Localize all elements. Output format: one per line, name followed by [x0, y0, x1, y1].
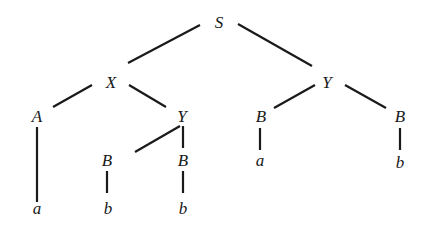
tree-edge [345, 85, 386, 108]
tree-node-Y1: Y [322, 73, 333, 92]
tree-edge [238, 24, 312, 66]
tree-edge [128, 25, 200, 63]
tree-node-a1: a [33, 199, 42, 218]
tree-node-b1: b [396, 153, 405, 172]
tree-edge [135, 126, 180, 152]
tree-node-X: X [105, 73, 117, 92]
parse-tree: SXYAYBBBBaabbb [0, 0, 425, 233]
tree-edge [53, 85, 92, 107]
tree-edges [37, 24, 400, 202]
tree-edge [129, 85, 166, 107]
tree-edge [274, 85, 315, 108]
tree-node-B4: B [178, 151, 189, 170]
tree-node-B1: B [256, 107, 267, 126]
tree-node-Y2: Y [177, 107, 188, 126]
tree-node-A: A [31, 107, 43, 126]
tree-node-b3: b [179, 199, 188, 218]
tree-node-b2: b [104, 199, 113, 218]
tree-node-B3: B [102, 151, 113, 170]
tree-node-S: S [215, 13, 224, 32]
tree-nodes: SXYAYBBBBaabbb [31, 13, 406, 218]
tree-node-B2: B [395, 107, 406, 126]
tree-node-a2: a [256, 151, 265, 170]
